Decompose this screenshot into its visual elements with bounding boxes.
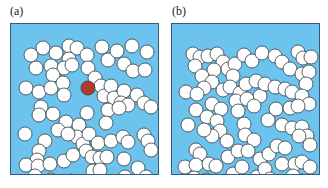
disk	[255, 46, 269, 60]
disk	[144, 143, 158, 157]
disk	[197, 123, 211, 137]
disk	[278, 141, 292, 155]
panel-a-label: (a)	[10, 4, 23, 19]
panel-b-label: (b)	[172, 4, 186, 19]
panel-a	[10, 23, 159, 175]
disk	[80, 106, 94, 120]
disk	[80, 48, 94, 62]
highlighted-disk	[81, 81, 95, 95]
disk	[138, 63, 152, 77]
disk	[65, 58, 79, 72]
disk	[231, 104, 245, 118]
disk	[95, 40, 109, 54]
disk	[117, 152, 131, 166]
disk	[32, 108, 46, 122]
disk	[295, 174, 309, 175]
disk	[190, 87, 204, 101]
disk	[199, 173, 213, 175]
disk	[235, 160, 249, 174]
disk	[24, 48, 38, 62]
disk	[110, 44, 124, 58]
disk	[46, 107, 60, 121]
disk	[303, 160, 317, 174]
disk	[43, 157, 57, 171]
panel-b-disks	[172, 24, 320, 175]
panel-a-disks	[11, 24, 159, 175]
disk	[291, 99, 305, 113]
disk	[19, 81, 33, 95]
disk	[247, 99, 261, 113]
disk	[292, 129, 306, 143]
disk	[66, 148, 80, 162]
disk	[220, 134, 234, 148]
disk	[140, 45, 154, 59]
disk	[93, 163, 107, 175]
disk	[209, 159, 223, 173]
disk	[44, 173, 58, 175]
disk	[304, 50, 318, 64]
disk	[36, 41, 50, 55]
disk	[18, 127, 32, 141]
disk	[61, 127, 75, 141]
disk	[118, 170, 132, 175]
disk	[112, 101, 126, 115]
disk	[181, 118, 195, 132]
disk	[99, 116, 113, 130]
disk	[49, 46, 63, 60]
disk	[57, 88, 71, 102]
panel-b	[171, 23, 320, 175]
disk	[100, 150, 114, 164]
disk	[241, 144, 255, 158]
disk	[125, 39, 139, 53]
disk	[144, 100, 158, 114]
disk	[64, 174, 78, 175]
disk	[91, 136, 105, 150]
disk	[121, 135, 135, 149]
disk	[275, 157, 289, 171]
disk	[269, 102, 283, 116]
disk	[189, 158, 203, 172]
disk	[29, 61, 43, 75]
